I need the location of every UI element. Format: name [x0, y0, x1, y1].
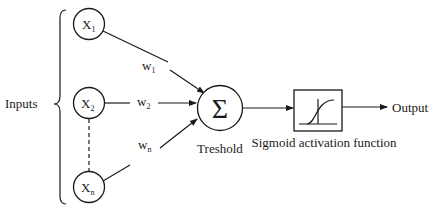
edge-wn-arrow — [160, 119, 197, 148]
summation-node: Σ — [198, 86, 243, 131]
neuron-diagram: Inputs X1 X2 Xn w1 w2 wn Σ Treshold — [0, 0, 447, 210]
threshold-label: Treshold — [197, 141, 243, 156]
edge-w1-arrow — [170, 70, 204, 93]
node-subscript: n — [90, 188, 94, 197]
output-label: Output — [392, 100, 429, 115]
input-node-x1: X1 — [74, 9, 105, 40]
inputs-label: Inputs — [5, 96, 38, 111]
edge-xn-segment — [103, 165, 130, 181]
activation-label: Sigmoid activation function — [251, 135, 397, 150]
node-subscript: 2 — [90, 104, 94, 113]
input-node-x2: X2 — [74, 88, 105, 119]
inputs-brace — [54, 10, 66, 204]
sigma-icon: Σ — [212, 93, 228, 124]
input-node-xn: Xn — [74, 172, 105, 203]
weight-label-wn: wn — [138, 137, 151, 154]
activation-box — [294, 90, 342, 131]
edge-x1-segment — [103, 31, 168, 62]
node-subscript: 1 — [91, 25, 95, 34]
weight-label-w1: w1 — [142, 58, 155, 75]
weight-label-w2: w2 — [137, 94, 150, 111]
